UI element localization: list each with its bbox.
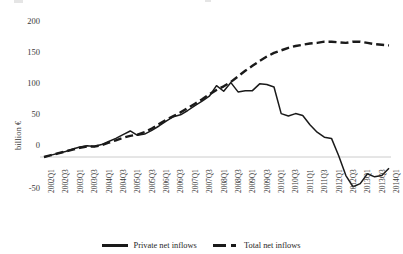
x-tick-label: 2005Q3: [148, 169, 157, 193]
x-tick-label: 2009Q1: [248, 169, 257, 193]
legend-item-private: Private net inflows: [102, 240, 196, 250]
x-tick-label: 2011Q1: [306, 169, 315, 193]
x-tick-label: 2008Q3: [234, 169, 243, 193]
x-tick-label: 2009Q3: [263, 169, 272, 193]
x-tick-label: 2008Q1: [220, 169, 229, 193]
line-chart: billion € 200 150 100 50 0 -50 2002Q1200…: [0, 0, 403, 254]
x-tick-label: 2003Q1: [76, 169, 85, 193]
x-tick-label: 2003Q3: [90, 169, 99, 193]
x-tick-label: 2013Q3: [378, 169, 387, 193]
legend-label-private: Private net inflows: [133, 241, 196, 250]
x-tick-label: 2002Q3: [61, 169, 70, 193]
x-tick-label: 2004Q3: [119, 169, 128, 193]
x-tick-label: 2006Q3: [176, 169, 185, 193]
x-tick-label: 2011Q3: [320, 169, 329, 193]
x-tick-label: 2014Q1: [392, 169, 401, 193]
legend-label-total: Total net inflows: [244, 241, 301, 250]
x-axis-tick-labels: 2002Q12002Q32003Q12003Q32004Q12004Q32005…: [0, 0, 403, 254]
x-tick-label: 2004Q1: [105, 169, 114, 193]
legend-key-solid: [102, 241, 128, 249]
x-tick-label: 2005Q1: [133, 169, 142, 193]
legend-item-total: Total net inflows: [213, 240, 301, 250]
x-tick-label: 2013Q1: [363, 169, 372, 193]
x-tick-label: 2007Q3: [205, 169, 214, 193]
legend-key-dashed: [213, 241, 239, 249]
x-tick-label: 2012Q1: [335, 169, 344, 193]
x-tick-label: 2007Q1: [191, 169, 200, 193]
x-tick-label: 2010Q1: [277, 169, 286, 193]
x-tick-label: 2010Q3: [291, 169, 300, 193]
x-tick-label: 2012Q3: [349, 169, 358, 193]
x-tick-label: 2006Q1: [162, 169, 171, 193]
x-tick-label: 2002Q1: [47, 169, 56, 193]
chart-legend: Private net inflows Total net inflows: [0, 240, 403, 250]
